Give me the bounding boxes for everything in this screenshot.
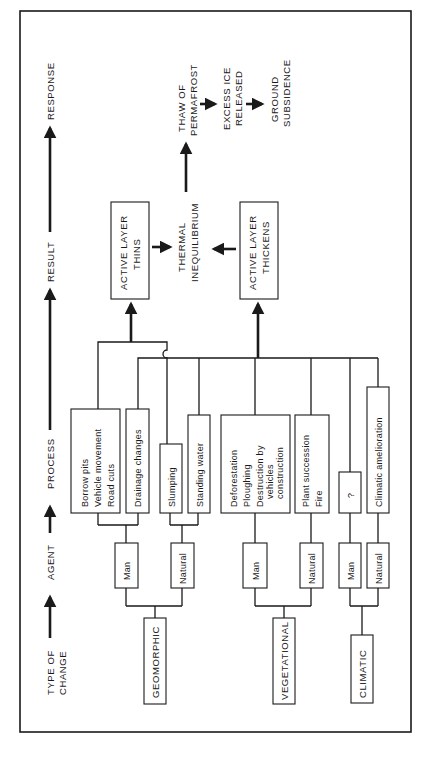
thermal-line2: INEQUILIBRIUM (189, 203, 200, 282)
process-road-cuts: Road cuts (106, 464, 116, 507)
veg-natural-label: Natural (307, 553, 317, 584)
thins-box (111, 202, 149, 299)
veg-man-label: Man (251, 562, 261, 580)
clim-man-label: Man (346, 562, 356, 580)
type-boxes: GEOMORPHIC VEGETATIONAL CLIMATIC (144, 618, 373, 704)
process-climatic-amelioration: Climatic amelioration (374, 417, 384, 507)
process-plant-succession: Plant succession (301, 435, 311, 507)
process-boxes: Borrow pits Vehicle movement Road cuts D… (71, 387, 389, 513)
thins-line2: THINS (131, 239, 142, 271)
stage-type-of-change-1: TYPE OF (45, 650, 56, 695)
geo-man-label: Man (122, 562, 132, 580)
process-fire: Fire (314, 490, 324, 507)
ice-line2: RELEASED (233, 71, 244, 127)
process-question-mark: ? (346, 493, 356, 498)
ground-line1: GROUND (269, 76, 280, 122)
agent-boxes: Man Natural Man Natural Man Natural (115, 543, 389, 588)
stage-agent: AGENT (45, 544, 56, 580)
ground-line2: SUBSIDENCE (281, 59, 292, 127)
process-vehicle-movement: Vehicle movement (93, 428, 103, 507)
thermal-line1: THERMAL (176, 222, 187, 272)
thaw-line1: THAW OF (176, 84, 187, 132)
agent-process-connectors (98, 513, 378, 543)
thaw-line2: PERMAFROST (188, 64, 199, 136)
process-slumping: Slumping (167, 467, 177, 507)
clim-natural-label: Natural (374, 553, 384, 584)
thickens-line1: ACTIVE LAYER (247, 215, 258, 290)
process-standing-water: Standing water (195, 443, 205, 507)
diagram-frame (20, 11, 411, 732)
stage-axis: TYPE OF CHANGE AGENT PROCESS RESULT RESP… (45, 62, 68, 695)
process-ploughing: Ploughing (242, 464, 252, 507)
responses: THAW OF PERMAFROST EXCESS ICE RELEASED G… (176, 59, 292, 136)
thickens-line2: THICKENS (260, 221, 271, 274)
result-boxes: ACTIVE LAYER THINS ACTIVE LAYER THICKENS… (111, 144, 278, 299)
ice-line1: EXCESS ICE (221, 67, 232, 130)
geomorphic-label: GEOMORPHIC (150, 626, 161, 698)
process-borrow-pits: Borrow pits (80, 458, 90, 507)
process-vehicles: vehicles (265, 464, 275, 499)
process-destruction-by: Destruction by (255, 445, 265, 507)
stage-result: RESULT (45, 242, 56, 282)
geo-natural-label: Natural (178, 553, 188, 584)
permafrost-flow-diagram: TYPE OF CHANGE AGENT PROCESS RESULT RESP… (0, 0, 421, 762)
process-deforestation: Deforestation (229, 450, 239, 507)
process-construction: construction (275, 447, 285, 499)
climatic-label: CLIMATIC (357, 650, 368, 698)
thickens-box (240, 202, 278, 299)
process-drainage-changes: Drainage changes (133, 429, 143, 507)
stage-response: RESPONSE (45, 62, 56, 120)
stage-type-of-change-2: CHANGE (57, 651, 68, 695)
process-unknown-box (339, 472, 361, 513)
vegetational-label: VEGETATIONAL (279, 621, 290, 700)
thins-line1: ACTIVE LAYER (118, 215, 129, 290)
stage-process: PROCESS (45, 438, 56, 489)
